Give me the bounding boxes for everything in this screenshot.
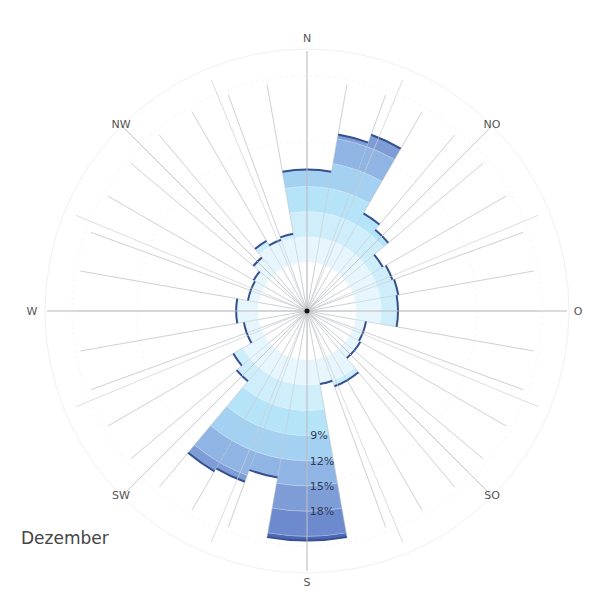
grid-line-overlay [307, 311, 483, 459]
grid-line-overlay [159, 135, 307, 311]
wedge-edge [236, 311, 237, 323]
wedge-band [285, 186, 307, 213]
center-dot [305, 309, 310, 314]
direction-label-s: S [304, 576, 311, 589]
wedge-edge [236, 299, 237, 311]
direction-label-o: O [574, 305, 583, 318]
ring-label-12: 12% [310, 455, 334, 468]
direction-label-n: N [303, 32, 311, 45]
wind-rose-chart: N NO O SO S SW W NW 9% 12% 15% 18% [0, 0, 605, 612]
wedge-band [272, 483, 307, 511]
wind-wedges [188, 135, 401, 541]
ring-label-18: 18% [310, 505, 334, 518]
direction-label-so: SO [484, 489, 500, 502]
direction-label-no: NO [484, 118, 501, 131]
ring-label-15: 15% [310, 480, 334, 493]
ring-label-9: 9% [310, 429, 327, 442]
direction-label-nw: NW [111, 118, 130, 131]
wedge-band [268, 508, 307, 536]
wedge-band [307, 384, 324, 410]
wedge-band [277, 459, 307, 486]
direction-label-sw: SW [112, 489, 130, 502]
wedge-band [282, 170, 307, 189]
wedge-band [307, 170, 332, 189]
direction-label-w: W [27, 305, 38, 318]
month-title: Dezember [21, 528, 109, 548]
